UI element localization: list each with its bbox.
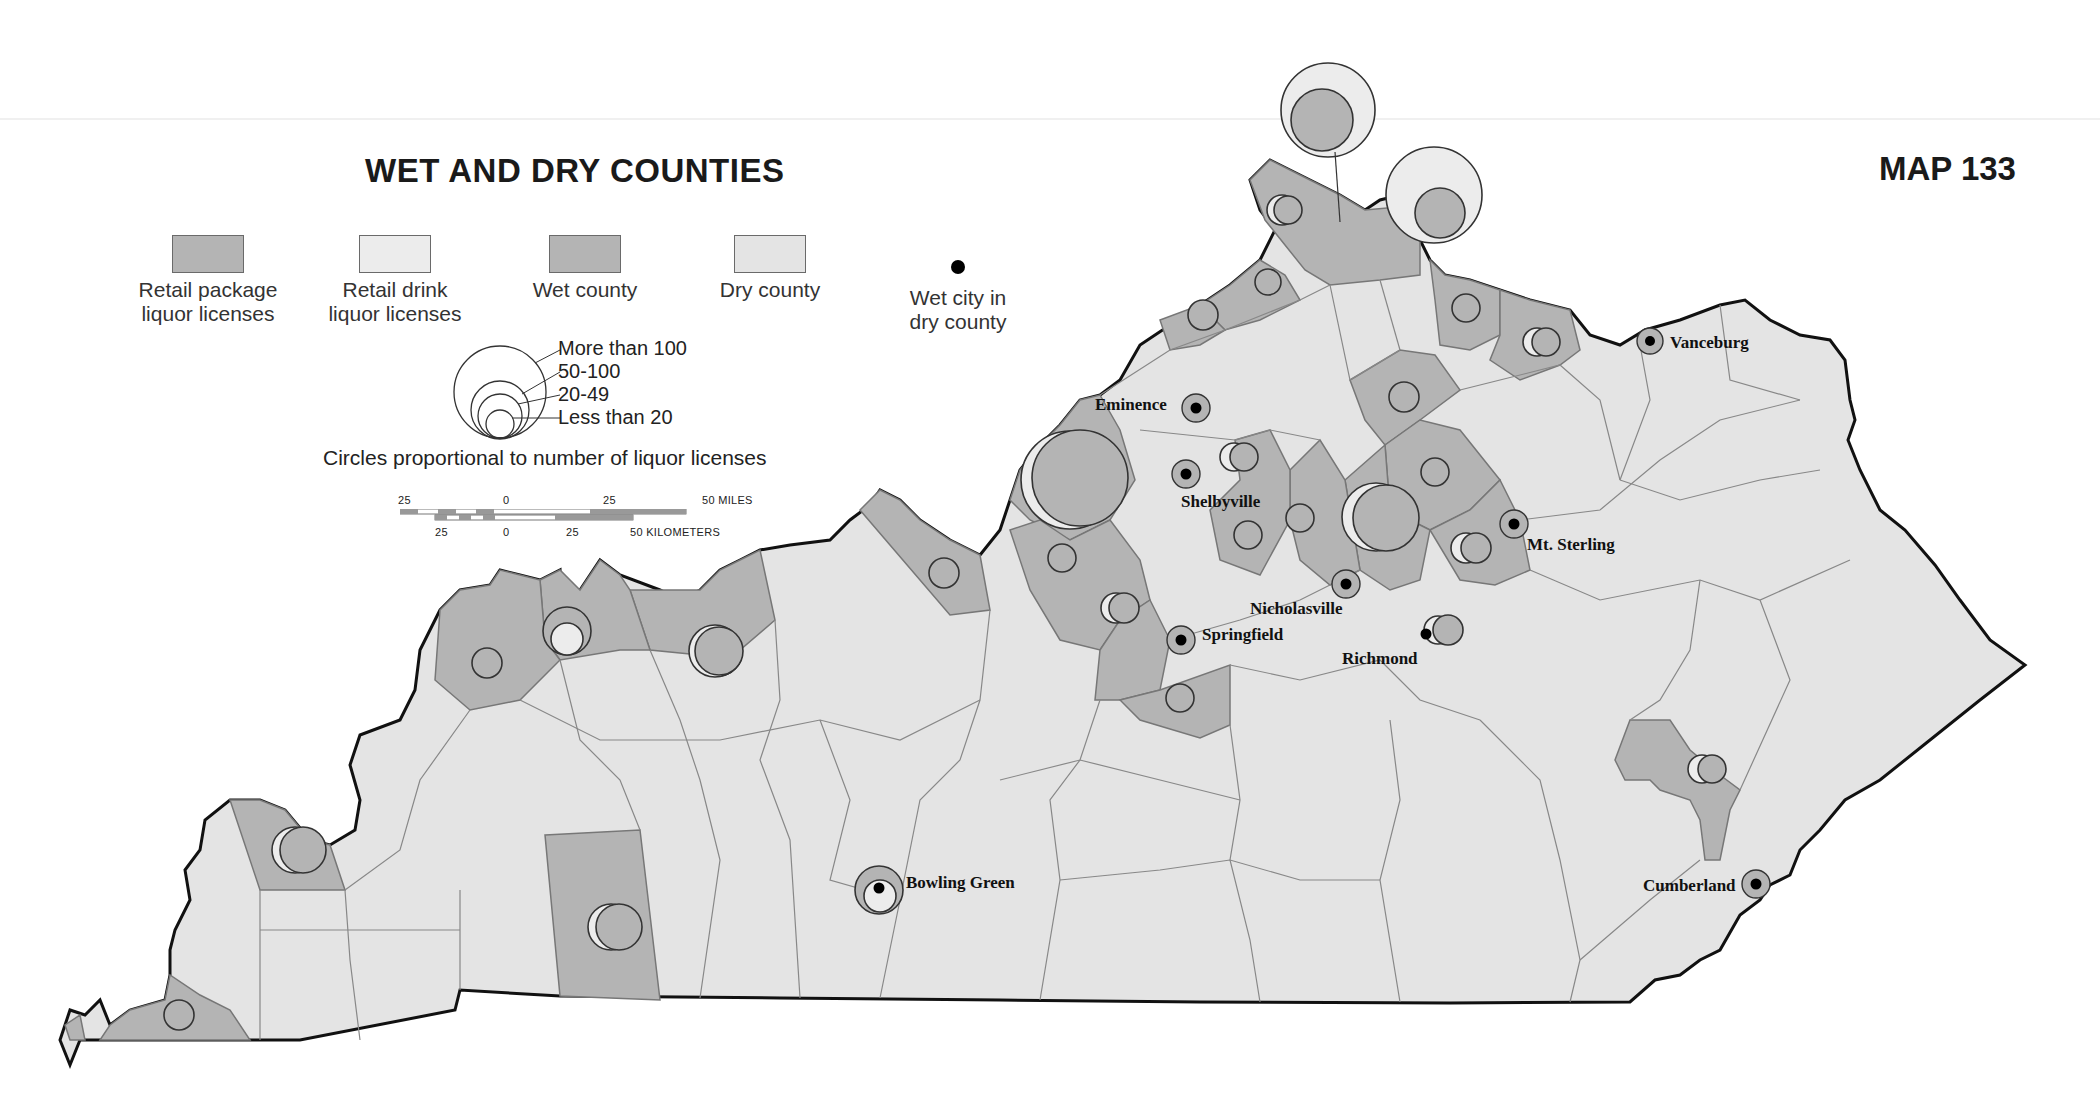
city-label-richmond: Richmond	[1342, 649, 1418, 668]
city-label-springfield: Springfield	[1202, 625, 1284, 644]
city-marker-cumberland	[1742, 870, 1770, 898]
kentucky-map: Vanceburg Eminence Shelbyville Mt. Sterl…	[0, 0, 2100, 1108]
city-marker-richmond	[1421, 629, 1432, 640]
package-circle	[1032, 430, 1128, 526]
city-label-nicholasville: Nicholasville	[1250, 599, 1343, 618]
package-circle	[1415, 188, 1465, 238]
city-marker-mt-sterling	[1500, 510, 1528, 538]
city-marker-bowling-green	[874, 883, 885, 894]
package-circle	[1291, 89, 1353, 151]
city-marker-vanceburg	[1637, 328, 1663, 354]
city-label-bowling-green: Bowling Green	[906, 873, 1015, 892]
city-marker-eminence	[1182, 394, 1210, 422]
city-label-eminence: Eminence	[1095, 395, 1167, 414]
city-marker-springfield	[1167, 626, 1195, 654]
city-label-mt-sterling: Mt. Sterling	[1527, 535, 1615, 554]
state-outline	[60, 160, 2025, 1065]
city-marker-shelbyville	[1172, 460, 1200, 488]
city-label-shelbyville: Shelbyville	[1181, 492, 1261, 511]
city-marker-nicholasville	[1332, 570, 1360, 598]
city-label-vanceburg: Vanceburg	[1670, 333, 1749, 352]
city-label-cumberland: Cumberland	[1643, 876, 1736, 895]
